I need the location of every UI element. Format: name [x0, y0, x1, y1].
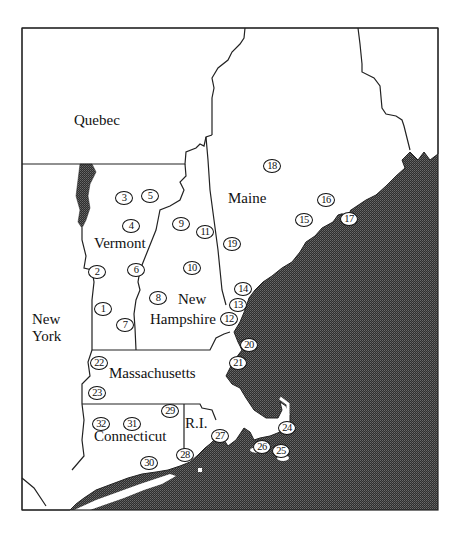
site-marker-28: 28: [176, 448, 194, 462]
site-marker-19: 19: [223, 237, 241, 251]
site-marker-1: 1: [94, 302, 112, 316]
site-marker-15: 15: [295, 213, 313, 227]
site-marker-6: 6: [127, 263, 145, 277]
region-label-rhode-island: R.I.: [185, 415, 208, 431]
site-marker-14: 14: [234, 282, 252, 296]
region-label-vermont: Vermont: [94, 235, 146, 251]
site-marker-25: 25: [272, 444, 290, 458]
site-marker-32: 32: [92, 417, 110, 431]
site-marker-23: 23: [88, 386, 106, 400]
site-marker-4: 4: [122, 219, 140, 233]
region-label-massachusetts: Massachusetts: [109, 365, 196, 381]
site-marker-16: 16: [317, 193, 335, 207]
site-marker-2: 2: [88, 265, 106, 279]
site-marker-5: 5: [141, 189, 159, 203]
new-england-map: [0, 0, 457, 534]
region-label-new-york-line2: York: [32, 328, 61, 344]
site-marker-13: 13: [229, 298, 247, 312]
site-marker-10: 10: [183, 261, 201, 275]
site-marker-26: 26: [253, 440, 271, 454]
site-marker-11: 11: [196, 225, 214, 239]
site-marker-21: 21: [229, 356, 247, 370]
site-marker-9: 9: [172, 217, 190, 231]
site-marker-3: 3: [115, 191, 133, 205]
site-marker-22: 22: [90, 356, 108, 370]
region-label-quebec: Quebec: [74, 112, 120, 128]
site-marker-30: 30: [140, 456, 158, 470]
site-marker-31: 31: [123, 417, 141, 431]
site-marker-17: 17: [340, 212, 358, 226]
site-marker-8: 8: [149, 291, 167, 305]
region-label-new-hampshire-line2: Hampshire: [150, 311, 216, 327]
site-marker-29: 29: [161, 404, 179, 418]
site-marker-12: 12: [220, 312, 238, 326]
site-marker-18: 18: [263, 159, 281, 173]
island-block: [198, 468, 202, 472]
region-label-new-hampshire-line1: New: [178, 291, 206, 307]
region-label-maine: Maine: [228, 190, 266, 206]
region-label-new-york-line1: New: [32, 311, 60, 327]
site-marker-24: 24: [278, 421, 296, 435]
site-marker-20: 20: [240, 338, 258, 352]
site-marker-7: 7: [116, 318, 134, 332]
site-marker-27: 27: [211, 429, 229, 443]
